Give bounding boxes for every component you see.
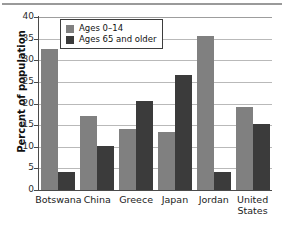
legend-swatch-icon	[66, 36, 74, 44]
y-axis-tick	[34, 60, 38, 61]
bar-group	[197, 17, 231, 190]
y-axis-tick	[34, 17, 38, 18]
bar	[80, 116, 97, 190]
x-axis-tick-label: UnitedStates	[223, 194, 283, 216]
legend-swatch-icon	[66, 25, 74, 33]
bar-group	[236, 17, 270, 190]
y-axis-tick-label: 35	[12, 34, 34, 43]
bar	[41, 49, 58, 190]
y-axis-tick	[34, 147, 38, 148]
bar	[97, 146, 114, 190]
y-axis-tick	[34, 190, 38, 191]
header-rule	[2, 3, 282, 5]
bar	[175, 75, 192, 190]
y-axis-tick-label: 10	[12, 142, 34, 151]
bar	[136, 101, 153, 190]
y-axis-tick-label: 25	[12, 77, 34, 86]
bar	[236, 107, 253, 190]
x-axis-tick-label-line: States	[223, 205, 283, 216]
bar	[58, 172, 75, 190]
y-axis-tick-label: 5	[12, 163, 34, 172]
legend-item-label: Ages 0–14	[79, 24, 123, 33]
bar	[119, 129, 136, 190]
y-axis-tick	[34, 39, 38, 40]
y-axis-tick-labels: 0510152025303540	[8, 0, 34, 225]
bar	[158, 132, 175, 190]
legend-item: Ages 65 and older	[66, 34, 156, 45]
y-axis-tick	[34, 82, 38, 83]
y-axis-tick	[34, 168, 38, 169]
bar	[214, 172, 231, 190]
x-axis-line	[38, 190, 272, 191]
y-axis-tick-label: 15	[12, 120, 34, 129]
y-axis-tick-label: 40	[12, 12, 34, 21]
y-axis-tick-label: 20	[12, 99, 34, 108]
x-axis-tick-label-line: United	[223, 194, 283, 205]
legend-item: Ages 0–14	[66, 23, 156, 34]
y-axis-tick	[34, 125, 38, 126]
y-axis-tick-label: 30	[12, 55, 34, 64]
legend-item-label: Ages 65 and older	[79, 35, 156, 44]
y-axis-tick-label: 0	[12, 185, 34, 194]
legend: Ages 0–14Ages 65 and older	[60, 19, 163, 49]
y-axis-tick	[34, 104, 38, 105]
bar	[197, 36, 214, 190]
bar-chart-figure: Percent of population 0510152025303540 B…	[0, 0, 284, 225]
bar	[253, 124, 270, 190]
